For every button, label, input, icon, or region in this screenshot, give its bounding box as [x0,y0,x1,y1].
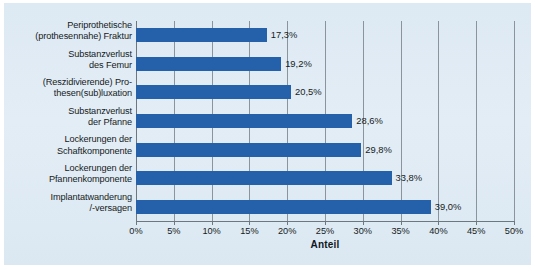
category-label: Substanzverlustder Pfanne [10,106,132,128]
category-label-line: Pfannenkomponente [10,174,132,185]
x-axis-title: Anteil [136,239,514,250]
x-axis-tick-label: 35% [383,226,419,236]
x-axis-tick-label: 10% [194,226,230,236]
bar [136,143,361,157]
category-label-line: Lockerungen der [10,163,132,174]
x-axis-tick [325,221,326,225]
bar-value-label: 19,2% [285,59,312,69]
x-axis-tick [249,221,250,225]
x-axis-tick-label: 40% [420,226,456,236]
category-label-line: Implantatwanderung [10,192,132,203]
category-label-line: Substanzverlust [10,49,132,60]
x-axis-tick-label: 15% [231,226,267,236]
x-axis-tick [401,221,402,225]
category-label: (Reszidivierende) Pro-thesen(sub)luxatio… [10,77,132,99]
category-label: Substanzverlustdes Femur [10,49,132,71]
x-axis-tick [476,221,477,225]
x-axis-tick [363,221,364,225]
x-axis-tick-label: 50% [496,226,532,236]
category-label-line: der Pfanne [10,117,132,128]
x-axis-tick-label: 20% [269,226,305,236]
gridline [401,21,402,221]
category-label-line: des Femur [10,60,132,71]
category-label: Implantatwanderung/-versagen [10,192,132,214]
bar-value-label: 20,5% [295,87,322,97]
bar [136,171,392,185]
x-axis-tick [174,221,175,225]
bar-value-label: 28,6% [356,116,383,126]
x-axis-tick [514,221,515,225]
x-axis-tick [438,221,439,225]
category-label: Lockerungen derPfannenkomponente [10,163,132,185]
category-label-line: /-versagen [10,203,132,214]
x-axis-tick [136,221,137,225]
gridline [514,21,515,221]
bar-value-label: 17,3% [271,30,298,40]
bar [136,57,281,71]
category-label-line: Periprothetische [10,20,132,31]
x-axis-tick-label: 5% [156,226,192,236]
bar-value-label: 29,8% [365,145,392,155]
bar [136,114,352,128]
bar-value-label: 33,8% [396,173,423,183]
category-label-line: thesen(sub)luxation [10,88,132,99]
category-label-line: Lockerungen der [10,134,132,145]
category-label-line: (prothesennahe) Fraktur [10,31,132,42]
bar [136,28,267,42]
x-axis-tick-label: 0% [118,226,154,236]
bar [136,200,431,214]
chart-figure: Periprothetische(prothesennahe) FrakturS… [4,3,531,265]
category-label: Periprothetische(prothesennahe) Fraktur [10,20,132,42]
category-label-line: (Reszidivierende) Pro- [10,77,132,88]
gridline [438,21,439,221]
category-axis: Periprothetische(prothesennahe) FrakturS… [12,18,136,221]
bar [136,85,291,99]
gridline [476,21,477,221]
category-label-line: Substanzverlust [10,106,132,117]
x-axis-tick [212,221,213,225]
x-axis-tick [287,221,288,225]
bar-value-label: 39,0% [435,202,462,212]
x-axis-tick-label: 30% [345,226,381,236]
x-axis-tick-label: 45% [458,226,494,236]
category-label: Lockerungen derSchaftkomponente [10,134,132,156]
x-axis-tick-label: 25% [307,226,343,236]
plot-area: 0%5%10%15%20%25%30%35%40%45%50%17,3%19,2… [136,21,514,221]
category-label-line: Schaftkomponente [10,146,132,157]
